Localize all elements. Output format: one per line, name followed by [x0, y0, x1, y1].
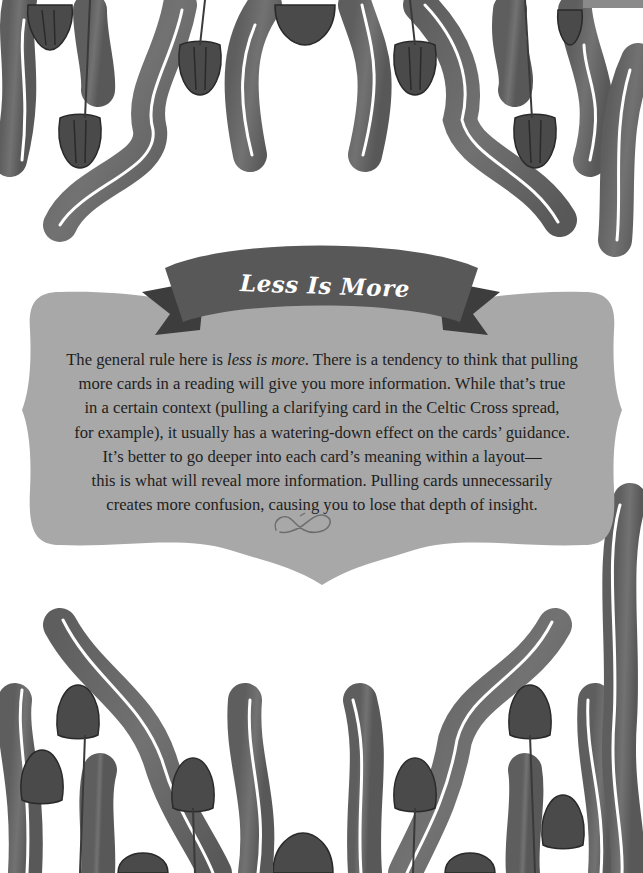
body-paragraph: The general rule here is less is more. T… [48, 348, 596, 517]
paragraph-line-2: more cards in a reading will give you mo… [48, 372, 596, 396]
paragraph-line-6: this is what will reveal more informatio… [48, 469, 596, 493]
paragraph-line-5: It’s better to go deeper into each card’… [48, 445, 596, 469]
corner-tab-decoration [583, 0, 643, 8]
infinity-flourish-icon [272, 510, 338, 538]
emphasis-less-is-more: less is more [227, 350, 305, 369]
paragraph-line-3: in a certain context (pulling a clarifyi… [48, 396, 596, 420]
paragraph-line-4: for example), it usually has a watering-… [48, 421, 596, 445]
paragraph-line-1: The general rule here is less is more. T… [48, 348, 596, 372]
